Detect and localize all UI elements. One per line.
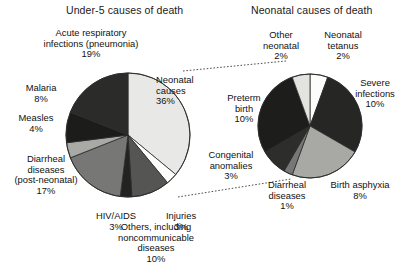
- label-severe-infections: Severe infections 10%: [348, 78, 402, 110]
- label-neonatal-tetanus: Neonatal tetanus 2%: [312, 30, 374, 62]
- label-congenital-anomalies: Congenital anomalies 3%: [198, 150, 264, 182]
- label-neonatal-causes: Neonatal causes 36%: [156, 75, 216, 107]
- label-malaria: Malaria 8%: [13, 83, 69, 104]
- label-injuries: Injuries 3%: [155, 211, 207, 232]
- connector-line-upper: [183, 61, 286, 71]
- pie-chart-neonatal: [258, 74, 362, 178]
- figure-root: Under-5 causes of death Neonatal causes …: [0, 0, 402, 269]
- label-birth-asphyxia: Birth asphyxia 8%: [318, 180, 402, 201]
- label-other-neonatal: Other neonatal 2%: [252, 30, 310, 62]
- label-diarrheal-diseases-neonatal: Diarrheal diseases 1%: [256, 180, 318, 212]
- label-preterm-birth: Preterm birth 10%: [218, 93, 270, 125]
- label-acute-respiratory-infections: Acute respiratory infections (pneumonia)…: [16, 28, 166, 60]
- label-measles: Measles 4%: [6, 113, 66, 134]
- label-diarrheal-diseases-post-neonatal: Diarrheal diseases (post-neonatal) 17%: [0, 154, 92, 196]
